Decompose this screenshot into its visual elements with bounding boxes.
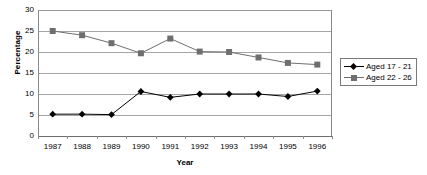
x-axis-tick-mark	[214, 136, 215, 139]
data-point-square	[109, 40, 115, 46]
x-axis-tick-mark	[185, 136, 186, 139]
data-point-square	[314, 62, 320, 68]
data-point-square	[256, 54, 262, 60]
x-axis-tick-mark	[303, 136, 304, 139]
data-point-square	[138, 50, 144, 56]
data-point-square	[226, 49, 232, 55]
x-axis-tick-mark	[273, 136, 274, 139]
y-axis-tick-label: 10	[4, 90, 34, 98]
data-point-diamond	[79, 111, 86, 118]
data-point-square	[50, 28, 56, 34]
y-axis-tick-label: 20	[4, 48, 34, 56]
data-point-diamond	[255, 91, 262, 98]
square-marker-icon	[344, 72, 364, 83]
diamond-marker-icon	[344, 61, 364, 72]
legend-item-aged-17-21[interactable]: Aged 17 - 21	[344, 61, 413, 72]
data-point-diamond	[285, 93, 292, 100]
y-axis-tick-label: 5	[4, 111, 34, 119]
series-line	[53, 31, 318, 65]
data-point-square	[285, 60, 291, 66]
legend-label: Aged 17 - 21	[364, 62, 412, 71]
x-axis-tick-mark	[38, 136, 39, 139]
series-line	[53, 91, 318, 115]
data-point-square	[79, 32, 85, 38]
y-axis-tick-labels: 302520151050	[4, 0, 34, 175]
data-point-square	[167, 36, 173, 42]
y-axis-tick-label: 0	[4, 132, 34, 140]
y-axis-tick-label: 25	[4, 27, 34, 35]
x-axis-tick-mark	[126, 136, 127, 139]
data-point-diamond	[167, 94, 174, 101]
series-layer	[38, 10, 332, 136]
x-axis-tick-mark	[244, 136, 245, 139]
legend-label: Aged 22 - 26	[364, 73, 412, 82]
data-point-diamond	[226, 91, 233, 98]
data-point-square	[197, 49, 203, 55]
line-chart: Percentage 302520151050 Year Aged 17 - 2…	[0, 0, 427, 175]
x-axis-tick-mark	[97, 136, 98, 139]
legend-item-aged-22-26[interactable]: Aged 22 - 26	[344, 72, 413, 83]
y-axis-tick-label: 30	[4, 6, 34, 14]
x-axis-tick-label: 1996	[297, 142, 337, 151]
x-axis-tick-mark	[156, 136, 157, 139]
x-axis-title: Year	[38, 158, 332, 167]
y-axis-tick-label: 15	[4, 69, 34, 77]
legend: Aged 17 - 21 Aged 22 - 26	[340, 58, 417, 86]
x-axis-tick-mark	[67, 136, 68, 139]
x-axis-tick-mark	[332, 136, 333, 139]
data-point-diamond	[314, 88, 321, 95]
data-point-diamond	[196, 91, 203, 98]
data-point-diamond	[49, 111, 56, 118]
